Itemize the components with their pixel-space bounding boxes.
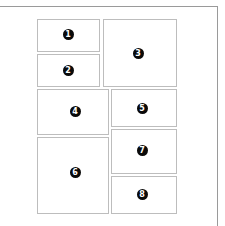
number-badge-5: 5 [137,103,148,114]
number-badge-3: 3 [133,48,144,59]
number-badge-6: 6 [70,167,81,178]
number-badge-1: 1 [63,29,74,40]
page-frame-top-border [0,6,218,7]
number-badge-2: 2 [63,65,74,76]
page-frame-right-border [217,6,218,226]
number-badge-7: 7 [137,145,148,156]
number-badge-8: 8 [137,189,148,200]
number-badge-4: 4 [70,106,81,117]
